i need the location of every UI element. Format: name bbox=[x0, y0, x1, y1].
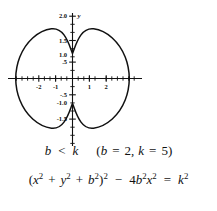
equation-x-exponent: 2 bbox=[39, 171, 43, 181]
condition-k-symbol: k bbox=[73, 143, 79, 158]
axes-group bbox=[8, 13, 142, 146]
x-tick-label-2: 2 bbox=[105, 83, 108, 90]
params-k-equals: = bbox=[148, 143, 157, 158]
y-axis-name-label: y bbox=[77, 12, 82, 20]
caption-condition-line: b<k(b=2,k=5) bbox=[0, 143, 217, 159]
x-tick-label-neg-2: -2 bbox=[36, 83, 41, 90]
params-b-equals: = bbox=[111, 143, 120, 158]
equation-minus: − bbox=[114, 172, 123, 187]
equation-x2-exponent: 2 bbox=[152, 171, 156, 181]
y-tick-labels: 2.0 1.5 1.0 .5 -.5 -1.0 -1.5 bbox=[57, 12, 68, 122]
params-b-symbol: b bbox=[101, 143, 108, 158]
equation-plus-2: + bbox=[75, 172, 84, 187]
params-k-symbol: k bbox=[138, 143, 144, 158]
equation-k-exponent: 2 bbox=[184, 171, 188, 181]
y-tick-label-neg-1-0: -1.0 bbox=[57, 99, 67, 106]
equation-group-exponent: 2 bbox=[103, 171, 107, 181]
equation-y-exponent: 2 bbox=[66, 171, 70, 181]
y-tick-label-2-0: 2.0 bbox=[59, 12, 67, 19]
x-tick-label-neg-1: -1 bbox=[53, 83, 58, 90]
equation-equals: = bbox=[163, 172, 172, 187]
cassini-oval-figure: 2.0 1.5 1.0 .5 -.5 -1.0 -1.5 -2 -1 1 2 y bbox=[0, 0, 217, 211]
params-paren-close: ) bbox=[168, 143, 172, 158]
cassini-oval-plot: 2.0 1.5 1.0 .5 -.5 -1.0 -1.5 -2 -1 1 2 y bbox=[0, 0, 217, 150]
caption-block: b<k(b=2,k=5) (x2+y2+b2)2−4b2x2=k2 bbox=[0, 143, 217, 188]
params-comma: , bbox=[131, 143, 134, 158]
condition-b-symbol: b bbox=[45, 143, 52, 158]
plot-area: 2.0 1.5 1.0 .5 -.5 -1.0 -1.5 -2 -1 1 2 y bbox=[0, 0, 217, 150]
y-tick-label-1-0: 1.0 bbox=[59, 51, 67, 58]
condition-relation: < bbox=[57, 143, 66, 158]
caption-equation-line: (x2+y2+b2)2−4b2x2=k2 bbox=[0, 172, 217, 188]
x-tick-label-1: 1 bbox=[88, 83, 91, 90]
y-tick-label-neg-0-5: -.5 bbox=[60, 91, 68, 98]
y-tick-label-0-5: .5 bbox=[62, 58, 68, 65]
equation-plus-1: + bbox=[47, 172, 56, 187]
